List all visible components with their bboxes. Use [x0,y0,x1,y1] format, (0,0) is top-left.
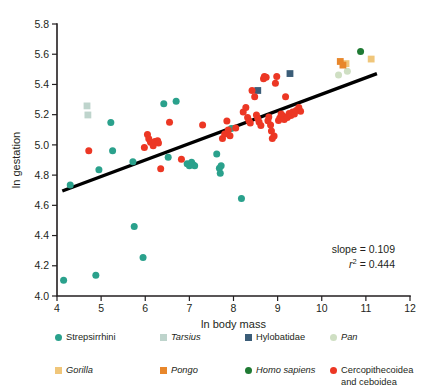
data-point [84,112,91,119]
data-point [265,113,272,120]
x-axis-tick-label: 7 [186,302,192,314]
legend-item-cercopithecoidea[interactable]: Cercopithecoidea and ceboidea [330,365,413,388]
data-point [85,147,92,154]
x-axis-tick-label: 9 [275,302,281,314]
legend-item-homo-sapiens[interactable]: Homo sapiens [245,365,315,377]
data-point [335,72,342,79]
data-point [140,254,147,261]
legend-label: Pongo [171,365,198,377]
data-point [272,80,279,87]
data-point [95,166,102,173]
legend-swatch-square [160,367,167,374]
data-point [131,223,138,230]
series-pongo [337,58,346,68]
data-point [67,181,74,188]
data-point [178,156,185,163]
data-point [217,170,224,177]
series-gorilla [343,56,375,67]
x-axis-tick-label: 12 [404,302,416,314]
data-point [141,144,148,151]
legend-item-pongo[interactable]: Pongo [160,365,198,377]
x-axis-tick-label: 6 [142,302,148,314]
legend-label: Tarsius [171,332,201,344]
legend-label: Pan [341,332,358,344]
r-squared-annotation: r2 = 0.444 [349,257,395,270]
data-point [238,195,245,202]
data-point [287,70,294,77]
legend-label: Strepsirrhini [66,332,116,344]
data-point [129,158,136,165]
scatter-plot-figure: 4.04.24.44.64.85.05.25.45.65.84567891011… [0,0,425,388]
y-axis-tick-label: 5.0 [34,139,49,151]
data-point [273,73,280,80]
data-point [160,100,167,107]
data-point [165,154,172,161]
data-point [247,119,254,126]
data-point [226,132,233,139]
legend-row: GorillaPongoHomo sapiensCercopithecoidea… [0,350,425,365]
data-point [92,272,99,279]
legend-swatch-square [160,334,167,341]
y-axis-tick-label: 4.4 [34,229,49,241]
data-point [60,277,67,284]
series-strepsirrhini [60,98,245,284]
chart-legend: StrepsirrhiniTarsiusHylobatidaePanGorill… [0,332,425,368]
data-point [297,108,304,115]
y-axis-tick-label: 4.6 [34,199,49,211]
data-point [218,162,225,169]
x-axis-tick-label: 10 [316,302,328,314]
y-axis-tick-label: 4.0 [34,290,49,302]
legend-swatch-circle [330,367,337,374]
legend-swatch-square [245,334,252,341]
data-point [257,122,264,129]
y-axis-tick-label: 4.2 [34,259,49,271]
data-point [213,150,220,157]
x-axis-tick-label: 4 [54,302,60,314]
data-point [232,124,239,131]
series-homo-sapiens [357,48,364,55]
x-axis-title: ln body mass [201,318,266,330]
legend-item-tarsius[interactable]: Tarsius [160,332,201,344]
data-point [263,74,270,81]
x-axis-tick-label: 11 [360,302,371,314]
y-axis-tick-label: 5.8 [34,18,49,30]
data-point [242,104,249,111]
y-axis-tick-label: 5.2 [34,108,49,120]
legend-swatch-circle [55,334,62,341]
y-axis-title: ln gestation [10,132,22,188]
axis-spines [57,24,410,296]
data-point [368,56,375,63]
series-pan [335,68,351,79]
legend-label: Homo sapiens [256,365,315,377]
data-point [191,162,198,169]
data-point [340,62,347,69]
data-point [251,93,258,100]
data-point [107,119,114,126]
slope-annotation: slope = 0.109 [332,243,396,255]
legend-swatch-circle [245,367,252,374]
data-point [109,147,116,154]
legend-item-hylobatidae[interactable]: Hylobatidae [245,332,305,344]
data-point [267,121,274,128]
data-point [357,48,364,55]
legend-item-gorilla[interactable]: Gorilla [55,365,93,377]
legend-item-pan[interactable]: Pan [330,332,358,344]
data-point [223,118,230,125]
x-axis-tick-label: 8 [231,302,237,314]
legend-swatch-square [55,367,62,374]
x-axis-tick-label: 5 [98,302,104,314]
data-point [84,103,91,110]
plot-canvas: 4.04.24.44.64.85.05.25.45.65.84567891011… [0,0,425,388]
series-cercopithecoidea-and-ceboidea [85,73,304,172]
data-point [344,68,351,75]
legend-label: Hylobatidae [256,332,305,344]
legend-label: Gorilla [66,365,93,377]
data-point [157,165,164,172]
y-axis-tick-label: 4.8 [34,169,49,181]
series-tarsius [84,103,92,119]
data-point [173,98,180,105]
legend-item-strepsirrhini[interactable]: Strepsirrhini [55,332,116,344]
data-point [282,93,289,100]
y-axis-tick-label: 5.6 [34,48,49,60]
data-point [249,87,256,94]
